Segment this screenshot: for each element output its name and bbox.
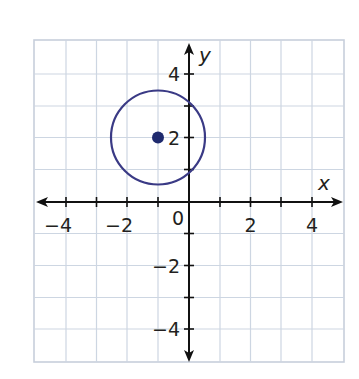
x-tick-label: 2 — [244, 214, 256, 236]
x-tick-label: 4 — [306, 214, 318, 236]
y-axis-label: y — [198, 43, 212, 67]
x-tick-label: −4 — [44, 214, 72, 236]
y-tick-label: −4 — [152, 318, 180, 340]
y-tick-label: 4 — [168, 63, 180, 85]
origin-label: 0 — [172, 207, 184, 229]
y-tick-label: 2 — [168, 127, 180, 149]
x-axis-label: x — [317, 171, 330, 195]
x-tick-label: −2 — [105, 214, 133, 236]
y-tick-label: −2 — [152, 255, 180, 277]
coordinate-plane: x y 0 −4 −2 2 4 4 2 −2 −4 — [0, 0, 359, 379]
center-point — [152, 132, 164, 144]
